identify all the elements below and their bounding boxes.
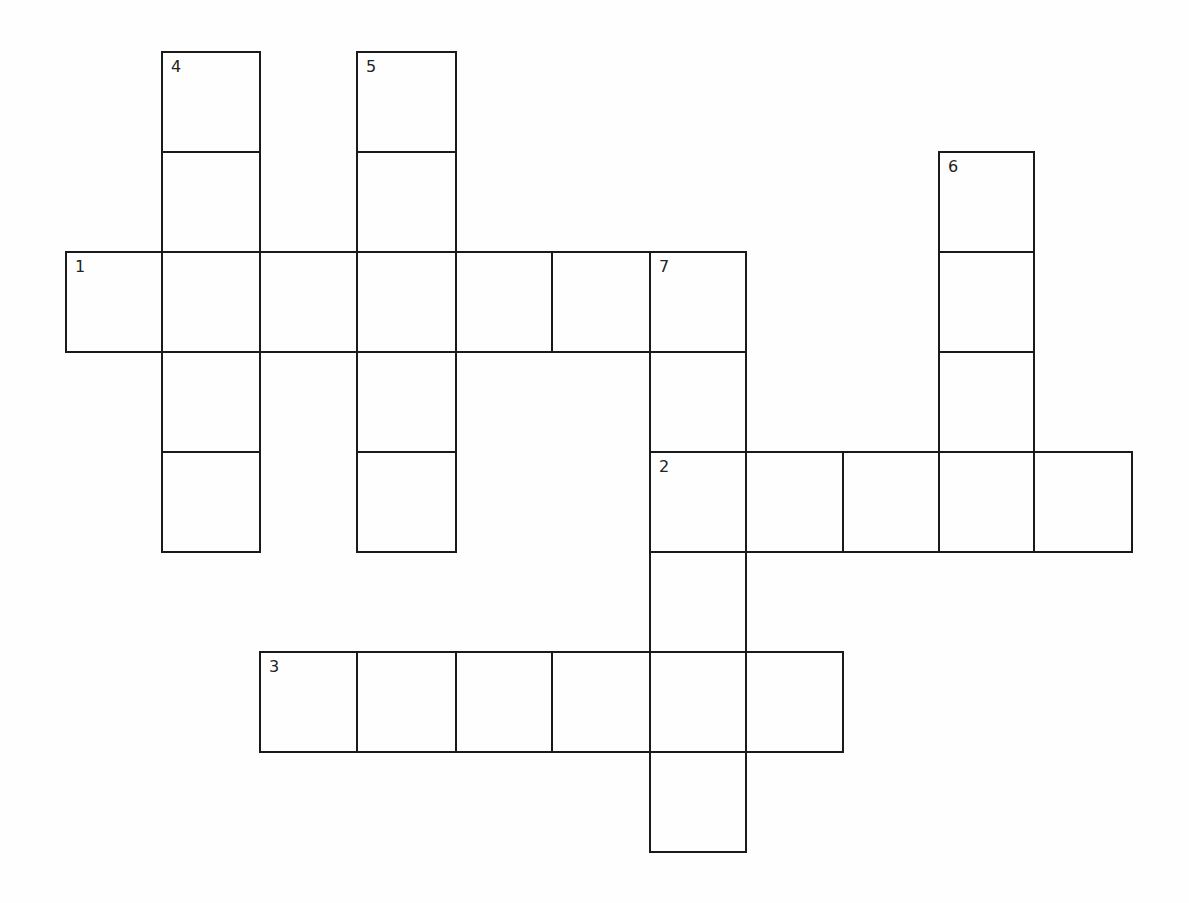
cell-letter [651, 653, 745, 751]
crossword-cell[interactable] [161, 451, 261, 553]
cell-letter [358, 53, 455, 151]
crossword-cell[interactable] [161, 251, 261, 353]
crossword-cell[interactable] [649, 751, 747, 853]
cell-letter [457, 253, 551, 351]
crossword-cell[interactable] [259, 251, 358, 353]
cell-letter [1035, 453, 1131, 551]
crossword-cell[interactable] [649, 551, 747, 653]
cell-letter [358, 653, 455, 751]
crossword-cell[interactable] [745, 451, 844, 553]
crossword-cell[interactable]: 1 [65, 251, 163, 353]
cell-letter [940, 353, 1033, 451]
crossword-cell[interactable]: 7 [649, 251, 747, 353]
cell-letter [358, 353, 455, 451]
cell-letter [358, 153, 455, 251]
crossword-cell[interactable] [649, 351, 747, 453]
cell-letter [747, 653, 842, 751]
cell-letter [163, 353, 259, 451]
crossword-cell[interactable] [356, 151, 457, 253]
crossword-cell[interactable] [161, 151, 261, 253]
cell-letter [553, 653, 649, 751]
crossword-cell[interactable] [356, 251, 457, 353]
crossword-cell[interactable] [649, 651, 747, 753]
cell-letter [358, 253, 455, 351]
cell-letter [261, 653, 356, 751]
crossword-cell[interactable] [1033, 451, 1133, 553]
cell-letter [163, 253, 259, 351]
crossword-cell[interactable] [356, 351, 457, 453]
cell-letter [358, 453, 455, 551]
crossword-cell[interactable] [356, 451, 457, 553]
cell-letter [747, 453, 842, 551]
cell-letter [940, 253, 1033, 351]
crossword-cell[interactable] [455, 651, 553, 753]
crossword-cell[interactable] [161, 351, 261, 453]
crossword-cell[interactable] [356, 651, 457, 753]
crossword-cell[interactable]: 2 [649, 451, 747, 553]
crossword-cell[interactable] [551, 251, 651, 353]
cell-letter [163, 153, 259, 251]
crossword-cell[interactable] [745, 651, 844, 753]
cell-letter [163, 53, 259, 151]
crossword-cell[interactable]: 6 [938, 151, 1035, 253]
crossword-cell[interactable]: 3 [259, 651, 358, 753]
cell-letter [651, 353, 745, 451]
cell-letter [651, 453, 745, 551]
cell-letter [163, 453, 259, 551]
cell-letter [651, 753, 745, 851]
cell-letter [940, 153, 1033, 251]
cell-letter [261, 253, 356, 351]
cell-letter [651, 253, 745, 351]
crossword-cell[interactable] [938, 251, 1035, 353]
crossword-cell[interactable] [551, 651, 651, 753]
crossword-cell[interactable] [938, 351, 1035, 453]
cell-letter [553, 253, 649, 351]
cell-letter [940, 453, 1033, 551]
cell-letter [67, 253, 161, 351]
crossword-board: 1723456 [0, 0, 1189, 903]
crossword-cell[interactable]: 5 [356, 51, 457, 153]
crossword-cell[interactable] [455, 251, 553, 353]
cell-letter [844, 453, 938, 551]
crossword-cell[interactable]: 4 [161, 51, 261, 153]
cell-letter [651, 553, 745, 651]
cell-letter [457, 653, 551, 751]
crossword-cell[interactable] [938, 451, 1035, 553]
crossword-cell[interactable] [842, 451, 940, 553]
